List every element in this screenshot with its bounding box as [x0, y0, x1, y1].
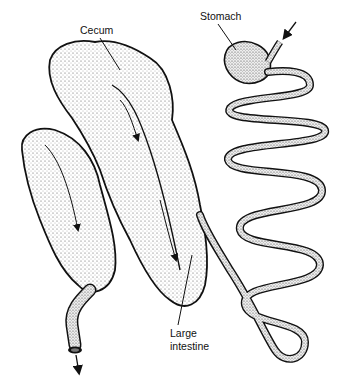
- entry-arrow-icon: [284, 22, 296, 38]
- large-intestine-label-line2: intestine: [170, 340, 209, 352]
- large-intestine-label-line1: Large: [170, 327, 197, 339]
- cecum-label: Cecum: [80, 24, 113, 36]
- stomach-label: Stomach: [200, 10, 241, 22]
- rectum-tube: [68, 290, 90, 373]
- digestive-tract-diagram: Cecum Stomach Large intestine: [0, 0, 346, 384]
- stomach-pointer: [218, 24, 236, 50]
- small-intestine-coils: [200, 71, 325, 359]
- exit-arrow-icon: [76, 355, 79, 373]
